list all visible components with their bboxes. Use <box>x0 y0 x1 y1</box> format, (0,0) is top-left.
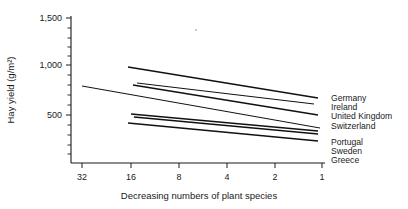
scan-artifact-speck <box>195 29 197 31</box>
y-axis-label: Hay yield (g/m²) <box>5 56 16 123</box>
x-tick-label-32: 32 <box>77 172 87 182</box>
series-label-switzerland: Switzerland <box>331 121 376 131</box>
x-axis: 32 16 8 4 2 1 Decreasing numbers of plan… <box>71 163 325 201</box>
y-axis: 1,500 1,000 500 Hay yield (g/m²) <box>5 13 71 163</box>
x-tick-label-16: 16 <box>126 172 136 182</box>
x-tick-label-1: 1 <box>319 172 324 182</box>
y-tick-label-500: 500 <box>47 110 62 120</box>
y-tick-label-1000: 1,000 <box>39 60 62 70</box>
series-lines <box>82 67 320 141</box>
series-label-united-kingdom: United Kingdom <box>331 111 392 121</box>
y-tick-label-1500: 1,500 <box>39 13 62 23</box>
series-legend: Germany Ireland United Kingdom Switzerla… <box>331 93 392 165</box>
chart-canvas: 1,500 1,000 500 Hay yield (g/m²) 32 16 8… <box>0 0 408 209</box>
x-tick-label-4: 4 <box>224 172 229 182</box>
chart-figure: 1,500 1,000 500 Hay yield (g/m²) 32 16 8… <box>0 0 408 209</box>
x-tick-label-8: 8 <box>176 172 181 182</box>
x-tick-label-2: 2 <box>272 172 277 182</box>
x-axis-label: Decreasing numbers of plant species <box>121 190 278 201</box>
series-label-greece: Greece <box>331 155 359 165</box>
